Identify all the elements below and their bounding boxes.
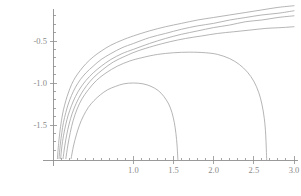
x-tick-label: 1.5 <box>168 165 179 175</box>
x-tick-label: 1.0 <box>128 165 139 175</box>
line-chart: 1.01.52.02.53.0-0.5-1.0-1.5 <box>0 0 301 196</box>
x-tick-label: 2.5 <box>249 165 260 175</box>
x-tick-label: 3.0 <box>289 165 300 175</box>
y-tick-label: -1.0 <box>34 78 47 88</box>
y-tick-label: -1.5 <box>34 120 47 130</box>
plot-container: 1.01.52.02.53.0-0.5-1.0-1.5 <box>0 0 301 196</box>
x-tick-label: 2.0 <box>208 165 219 175</box>
y-tick-label: -0.5 <box>34 36 47 46</box>
